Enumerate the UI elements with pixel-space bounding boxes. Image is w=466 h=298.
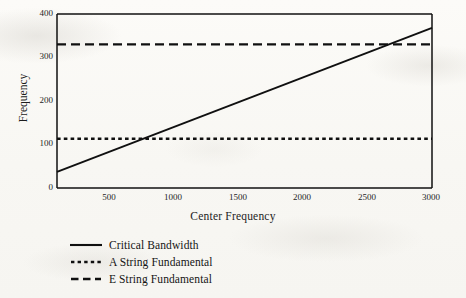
legend-label-e-string-fundamental: E String Fundamental [109, 273, 212, 285]
chart-page: 400 300 200 100 0 500 1000 1500 2000 250… [0, 0, 466, 298]
legend-label-a-string-fundamental: A String Fundamental [109, 256, 213, 268]
series-line-critical-bandwidth [57, 28, 432, 172]
legend-swatch-dashed-line-icon [70, 274, 102, 284]
legend-swatch-dotted-line-icon [70, 257, 102, 267]
legend-item-critical-bandwidth: Critical Bandwidth [70, 236, 213, 253]
legend-item-a-string-fundamental: A String Fundamental [70, 253, 213, 270]
legend-label-critical-bandwidth: Critical Bandwidth [109, 239, 199, 251]
chart-legend: Critical Bandwidth A String Fundamental … [70, 236, 213, 287]
legend-swatch-solid-line-icon [70, 240, 102, 250]
legend-item-e-string-fundamental: E String Fundamental [70, 270, 213, 287]
plot-frame [57, 14, 432, 188]
